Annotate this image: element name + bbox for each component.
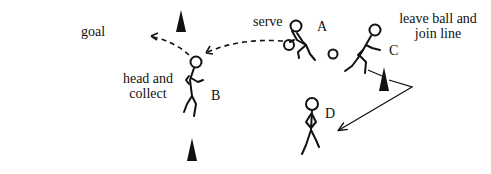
player-d-figure [302,98,319,154]
arrowhead-goal-icon [151,33,158,40]
run-arrow [339,80,412,130]
leave-ball-label: leave ball and [388,11,488,26]
player-b-label: B [211,88,220,103]
join-line-label: join line [388,26,488,41]
cone-top [176,10,186,32]
dash-to-cone [368,70,382,76]
dashed-path-to-goal [153,37,189,55]
collect-label: collect [118,86,178,101]
cone-bottom [187,138,197,161]
goal-label: goal [81,24,105,39]
dashed-serve-path [208,40,283,52]
player-d-label: D [325,106,335,121]
serve-label: serve [253,14,283,29]
cone-right [379,67,389,91]
head-and-label: head and [118,71,178,86]
player-a-label: A [317,19,327,34]
ball-icon [329,50,338,59]
player-c-label: C [389,43,398,58]
player-a-figure [284,21,315,61]
player-c-figure [345,25,381,74]
player-b-figure [184,57,203,117]
drill-diagram: goal head and collect B serve A leave ba… [0,0,491,174]
